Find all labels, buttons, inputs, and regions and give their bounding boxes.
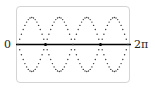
x-axis-label-two-pi: 2π <box>134 39 148 50</box>
plot-area <box>0 0 155 89</box>
x-axis-label-zero: 0 <box>4 39 11 50</box>
